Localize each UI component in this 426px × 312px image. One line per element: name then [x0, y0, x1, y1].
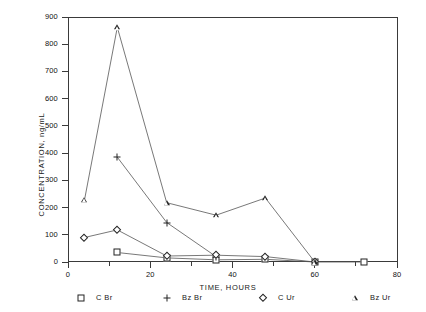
legend-item-label: C Ur: [278, 293, 295, 302]
legend-item[interactable]: C Br: [76, 293, 113, 302]
legend-item-label: Bz Ur: [370, 293, 391, 302]
plus-marker-icon: [162, 293, 171, 302]
legend-item[interactable]: C Ur: [258, 293, 295, 302]
chart-figure: CONCENTRATION, ng/mL 0100200300400500600…: [0, 0, 426, 312]
series-line: [85, 27, 315, 262]
chart-legend: C BrBz BrC UrBz Ur: [62, 293, 422, 309]
legend-item-label: C Br: [96, 293, 113, 302]
legend-item[interactable]: Bz Ur: [350, 293, 391, 302]
series-line: [117, 157, 216, 256]
legend-item-label: Bz Br: [182, 293, 202, 302]
legend-item[interactable]: Bz Br: [162, 293, 202, 302]
square-marker-icon: [76, 293, 85, 302]
diamond-marker-icon: [258, 293, 267, 302]
triangle-marker-icon: [350, 293, 359, 302]
x-axis-title: TIME, HOURS: [148, 283, 308, 292]
series-line: [117, 253, 364, 263]
series-lines: [0, 0, 426, 312]
series-line: [85, 230, 315, 262]
